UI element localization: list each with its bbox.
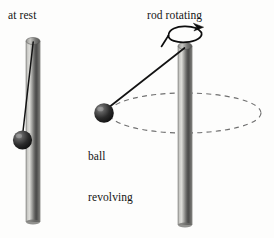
ball-at-rest [13, 130, 32, 149]
right-rod [178, 43, 192, 228]
left-rod-body [26, 41, 40, 222]
ball-revolving [94, 103, 114, 123]
physics-diagram [0, 0, 274, 238]
label-ball-revolving-line1: ball [88, 150, 133, 164]
rotation-arrow-icon [162, 23, 204, 46]
ball-at-rest-highlight [16, 134, 22, 138]
label-ball-revolving: ball revolving [88, 123, 133, 218]
ball-revolving-highlight [97, 107, 103, 112]
rotation-arrow-front-arc [168, 33, 201, 43]
label-at-rest: at rest [8, 9, 36, 23]
rotation-arrow-tail [162, 36, 169, 47]
left-rod-bottom-cap [26, 220, 40, 225]
label-ball-revolving-line2: revolving [88, 191, 133, 205]
right-rod-body [178, 46, 192, 225]
right-rod-bottom-cap [178, 223, 192, 228]
label-rod-rotating: rod rotating [147, 9, 202, 23]
left-scene-rod-at-rest [13, 38, 40, 225]
left-rod [26, 38, 40, 225]
right-string [108, 48, 185, 108]
